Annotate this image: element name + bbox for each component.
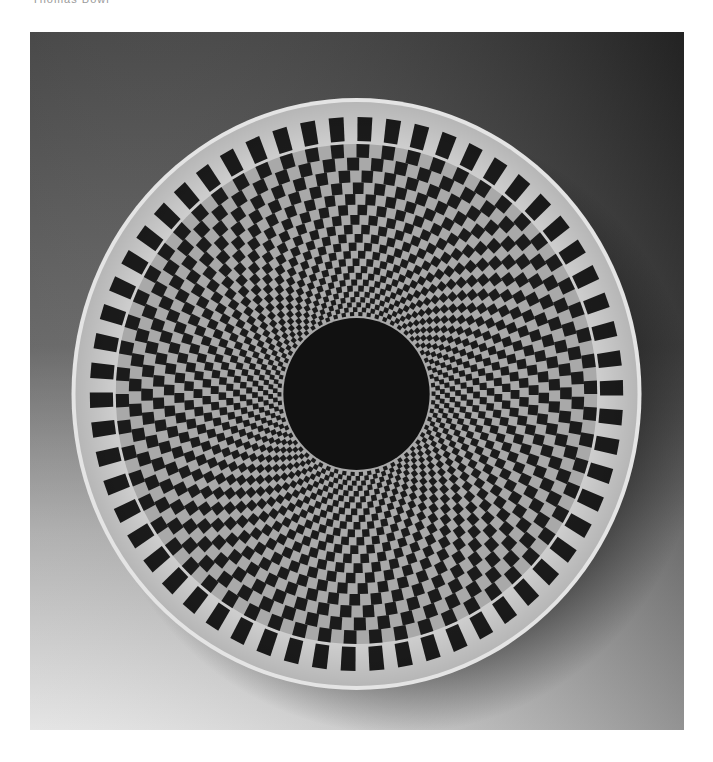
- bowl-photograph: [30, 32, 684, 730]
- center-disc: [283, 318, 429, 470]
- photo-caption: Thomas Bowl: [32, 0, 110, 5]
- bowl: [72, 98, 642, 690]
- bowl-illustration: [30, 32, 684, 730]
